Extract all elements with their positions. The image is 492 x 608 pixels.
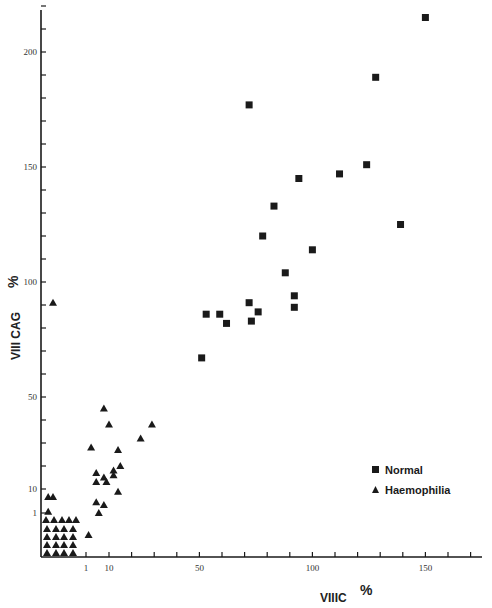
haemophilia-point-triangle-icon [42,516,50,523]
haemophilia-point-triangle-icon [52,549,60,556]
normal-point-square-icon [246,101,253,108]
haemophilia-point-triangle-icon [50,516,58,523]
haemophilia-point-triangle-icon [92,478,100,485]
haemophilia-point-triangle-icon [72,516,80,523]
haemophilia-point-triangle-icon [100,501,108,508]
normal-point-square-icon [255,308,262,315]
haemophilia-point-triangle-icon [44,508,52,515]
y-tick-label: 10 [28,484,38,494]
normal-point-square-icon [309,246,316,253]
normal-point-square-icon [336,170,343,177]
haemophilia-point-triangle-icon [137,434,145,441]
y-axis-title-text: VIII CAG [9,312,23,360]
haemophilia-point-triangle-icon [60,541,68,548]
haemophilia-point-triangle-icon [114,446,122,453]
y-tick-label: 100 [24,277,38,287]
haemophilia-point-triangle-icon [52,525,60,532]
normal-point-square-icon [291,304,298,311]
haemophilia-point-triangle-icon [52,533,60,540]
x-axis-title-text: VIIIC [320,591,347,605]
haemophilia-point-triangle-icon [43,533,51,540]
x-tick-label: 50 [195,563,205,573]
normal-point-square-icon [282,269,289,276]
haemophilia-point-triangle-icon [92,469,100,476]
haemophilia-point-triangle-icon [69,549,77,556]
haemophilia-point-triangle-icon [43,549,51,556]
normal-point-square-icon [259,233,266,240]
haemophilia-point-triangle-icon [69,541,77,548]
x-axis-title: VIIIC % [320,582,373,605]
normal-point-square-icon [270,203,277,210]
normal-point-square-icon [372,74,379,81]
haemophilia-point-triangle-icon [87,444,95,451]
scatter-chart: 11050100150200 11050100150 VIII CAG % VI… [0,0,492,608]
legend: Normal Haemophilia [372,464,451,496]
normal-point-square-icon [198,354,205,361]
normal-point-square-icon [216,311,223,318]
x-axis: 11050100150 [41,552,482,573]
x-axis-title-unit: % [360,582,373,598]
legend-triangle-icon [372,486,379,493]
haemophilia-low-cluster [42,516,80,556]
haemophilia-point-triangle-icon [43,525,51,532]
haemophilia-point-triangle-icon [95,509,103,516]
legend-label-normal: Normal [385,464,423,476]
haemophilia-point-triangle-icon [65,516,73,523]
y-tick-label: 150 [24,162,38,172]
normal-point-square-icon [291,292,298,299]
haemophilia-point-triangle-icon [105,421,113,428]
haemophilia-point-triangle-icon [58,516,66,523]
haemophilia-point-triangle-icon [49,299,57,306]
haemophilia-point-triangle-icon [52,541,60,548]
normal-point-square-icon [363,161,370,168]
haemophilia-point-triangle-icon [148,421,156,428]
x-tick-label: 1 [84,563,89,573]
haemophilia-point-triangle-icon [85,531,93,538]
y-axis: 11050100150200 [24,6,47,557]
normal-point-square-icon [295,175,302,182]
normal-point-square-icon [248,318,255,325]
haemophilia-point-triangle-icon [114,488,122,495]
y-axis-title-unit: % [5,275,21,288]
haemophilia-point-triangle-icon [92,498,100,505]
data-points [44,14,429,538]
haemophilia-point-triangle-icon [100,405,108,412]
y-tick-label: 200 [24,47,38,57]
y-tick-label: 1 [33,508,38,518]
haemophilia-point-triangle-icon [116,462,124,469]
haemophilia-point-triangle-icon [43,541,51,548]
x-tick-label: 150 [419,563,433,573]
x-tick-label: 100 [306,563,320,573]
normal-point-square-icon [397,221,404,228]
haemophilia-point-triangle-icon [60,533,68,540]
haemophilia-point-triangle-icon [60,525,68,532]
haemophilia-point-triangle-icon [69,525,77,532]
legend-label-haemophilia: Haemophilia [385,484,451,496]
legend-square-icon [372,466,379,473]
normal-point-square-icon [203,311,210,318]
x-tick-label: 10 [105,563,115,573]
normal-point-square-icon [246,299,253,306]
haemophilia-point-triangle-icon [69,533,77,540]
normal-point-square-icon [223,320,230,327]
y-tick-label: 50 [28,392,38,402]
y-axis-title: VIII CAG % [5,275,23,360]
normal-point-square-icon [422,14,429,21]
haemophilia-point-triangle-icon [60,549,68,556]
